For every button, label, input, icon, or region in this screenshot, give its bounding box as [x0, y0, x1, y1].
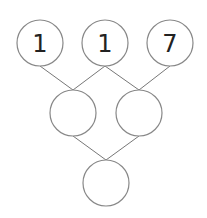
top-value-3: 7 — [162, 30, 177, 58]
connector-line — [105, 66, 139, 90]
bottom-circle[interactable] — [83, 160, 129, 206]
connector-line — [73, 136, 106, 160]
connector-line — [139, 66, 170, 90]
pyramid-diagram: 1 1 7 — [0, 0, 207, 218]
middle-circle-2[interactable] — [116, 90, 162, 136]
connector-line — [73, 66, 105, 90]
connector-line — [40, 66, 73, 90]
middle-circle-1[interactable] — [50, 90, 96, 136]
top-value-1: 1 — [32, 30, 47, 58]
connector-line — [106, 136, 139, 160]
top-value-2: 1 — [97, 30, 112, 58]
